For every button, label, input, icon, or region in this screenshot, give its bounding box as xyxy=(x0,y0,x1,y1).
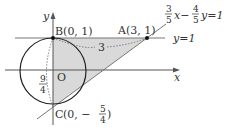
eq-coef2-num: 4 xyxy=(193,4,199,14)
x-axis-label: x xyxy=(174,71,181,84)
dashed-arc-bc xyxy=(47,38,54,107)
point-c-frac-den: 4 xyxy=(100,115,106,125)
point-a-label: A(3, 1) xyxy=(117,24,156,37)
eq-mid: x− xyxy=(174,9,189,22)
eq-coef1-den: 5 xyxy=(166,15,172,25)
y-axis-arrow-icon xyxy=(51,12,56,19)
bc-length-den: 4 xyxy=(40,85,46,95)
diagram-canvas: y x O B(0, 1) A(3, 1) C (0, − 5 4 ) 3 9 … xyxy=(0,0,234,129)
eq-tail: y=1 xyxy=(200,9,223,22)
point-c-label-open: (0, − xyxy=(63,108,91,121)
point-b-label: B(0, 1) xyxy=(55,25,93,38)
bc-length-num: 9 xyxy=(40,74,46,84)
ab-length-label: 3 xyxy=(98,41,105,54)
line-y-equals-1-label: y=1 xyxy=(172,32,195,45)
eq-coef1-num: 3 xyxy=(166,4,172,14)
origin-label: O xyxy=(57,71,66,84)
point-c-label-close: ) xyxy=(107,108,111,121)
y-axis-label: y xyxy=(42,10,50,23)
eq-coef2-den: 5 xyxy=(193,15,199,25)
point-c-frac-num: 5 xyxy=(100,104,106,114)
